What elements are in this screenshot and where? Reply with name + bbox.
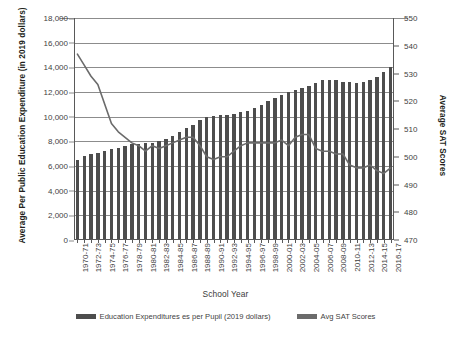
y-axis-left-tick-label: 0	[64, 236, 68, 245]
chart-legend: Education Expenditures es per Pupil (201…	[0, 312, 451, 321]
y-axis-right-tick-mark	[394, 212, 399, 213]
x-axis-tick-label: 1992-93	[230, 243, 239, 272]
y-axis-left-tick-label: 10,000	[44, 112, 68, 121]
y-axis-left-title: Average Per Public Education Expenditure…	[17, 24, 28, 244]
x-axis-tick-mark	[159, 239, 160, 243]
x-axis-tick-label: 1986-87	[190, 243, 199, 272]
x-axis-tick-mark	[145, 239, 146, 243]
x-axis-tick-mark	[295, 239, 296, 243]
y-axis-left-tick-label: 6,000	[48, 162, 68, 171]
y-axis-right-tick-label: 520	[404, 97, 417, 106]
y-axis-left-tick-label: 18,000	[44, 14, 68, 23]
y-axis-right-tick-label: 510	[404, 125, 417, 134]
x-axis-tick-label: 1978-79	[135, 243, 144, 272]
y-axis-right-tick-mark	[394, 184, 399, 185]
x-axis-tick-mark	[323, 239, 324, 243]
x-axis-tick-label: 2010-11	[353, 243, 362, 272]
y-axis-right-tick-mark	[394, 45, 399, 46]
x-axis-tick-label: 1984-85	[176, 243, 185, 272]
x-axis-tick-label: 1998-99	[271, 243, 280, 272]
y-axis-right-tick-label: 470	[404, 236, 417, 245]
x-axis-tick-mark	[391, 239, 392, 243]
x-axis-tick-mark	[282, 239, 283, 243]
y-axis-left-tick-label: 12,000	[44, 88, 68, 97]
x-axis-tick-label: 1990-91	[217, 243, 226, 272]
x-axis-tick-label: 1976-77	[121, 243, 130, 272]
x-axis-tick-mark	[227, 239, 228, 243]
x-axis-tick-mark	[336, 239, 337, 243]
x-axis-tick-label: 2008-09	[339, 243, 348, 272]
x-axis-tick-mark	[132, 239, 133, 243]
x-axis-tick-label: 1988-89	[203, 243, 212, 272]
legend-swatch	[297, 314, 317, 319]
x-axis-tick-label: 1980-81	[149, 243, 158, 272]
x-axis-tick-label: 1996-97	[258, 243, 267, 272]
y-axis-right-tick-label: 550	[404, 14, 417, 23]
y-axis-left-tick-label: 16,000	[44, 38, 68, 47]
x-axis-tick-label: 2016-17	[394, 243, 403, 272]
x-axis-tick-label: 2006-07	[326, 243, 335, 272]
x-axis-tick-label: 2004-05	[312, 243, 321, 272]
x-axis-tick-mark	[118, 239, 119, 243]
x-axis-tick-mark	[377, 239, 378, 243]
x-axis-tick-mark	[363, 239, 364, 243]
x-axis-tick-mark	[200, 239, 201, 243]
y-axis-right-tick-mark	[394, 101, 399, 102]
y-axis-right-tick-label: 490	[404, 180, 417, 189]
y-axis-right-tick-mark	[394, 240, 399, 241]
x-axis-tick-mark	[91, 239, 92, 243]
y-axis-left-tick-label: 8,000	[48, 137, 68, 146]
x-axis-tick-mark	[173, 239, 174, 243]
x-axis-tick-label: 1970-71	[81, 243, 90, 272]
x-axis-tick-mark	[214, 239, 215, 243]
x-axis-tick-mark	[77, 239, 78, 243]
x-axis-tick-label: 2012-13	[367, 243, 376, 272]
x-axis-tick-mark	[186, 239, 187, 243]
legend-item: Education Expenditures es per Pupil (201…	[76, 312, 271, 321]
y-axis-right-tick-label: 540	[404, 41, 417, 50]
x-axis-title: School Year	[0, 289, 451, 299]
legend-item: Avg SAT Scores	[297, 312, 376, 321]
y-axis-right-tick-mark	[394, 129, 399, 130]
plot-frame	[74, 18, 394, 240]
x-axis-tick-mark	[309, 239, 310, 243]
x-axis-tick-label: 1972-73	[94, 243, 103, 272]
x-axis-tick-label: 2000-01	[285, 243, 294, 272]
x-axis-tick-label: 2002-03	[298, 243, 307, 272]
legend-label: Education Expenditures es per Pupil (201…	[100, 312, 271, 321]
x-axis-tick-label: 2014-15	[380, 243, 389, 272]
x-axis-tick-mark	[350, 239, 351, 243]
plot-area: 02,0004,0006,0008,00010,00012,00014,0001…	[74, 18, 394, 240]
y-axis-right-tick-mark	[394, 156, 399, 157]
x-axis-tick-labels: 1970-711972-731974-751976-771978-791980-…	[74, 243, 394, 289]
x-axis-tick-label: 1994-95	[244, 243, 253, 272]
legend-swatch	[76, 314, 96, 319]
x-axis-tick-mark	[254, 239, 255, 243]
x-axis-tick-mark	[105, 239, 106, 243]
y-axis-right-tick-label: 530	[404, 69, 417, 78]
x-axis-tick-label: 1982-83	[162, 243, 171, 272]
y-axis-right-tick-label: 500	[404, 152, 417, 161]
y-axis-right-tick-mark	[394, 73, 399, 74]
x-axis-tick-mark	[268, 239, 269, 243]
legend-label: Avg SAT Scores	[321, 312, 376, 321]
y-axis-left-tick-label: 14,000	[44, 63, 68, 72]
y-axis-left-tick-label: 4,000	[48, 186, 68, 195]
x-axis-tick-mark	[241, 239, 242, 243]
y-axis-right-title: Average SAT Scores	[437, 46, 448, 226]
y-axis-right-tick-label: 480	[404, 208, 417, 217]
chart-container: Average Per Public Education Expenditure…	[0, 0, 451, 337]
y-axis-left-tick-label: 2,000	[48, 211, 68, 220]
x-axis-tick-label: 1974-75	[108, 243, 117, 272]
